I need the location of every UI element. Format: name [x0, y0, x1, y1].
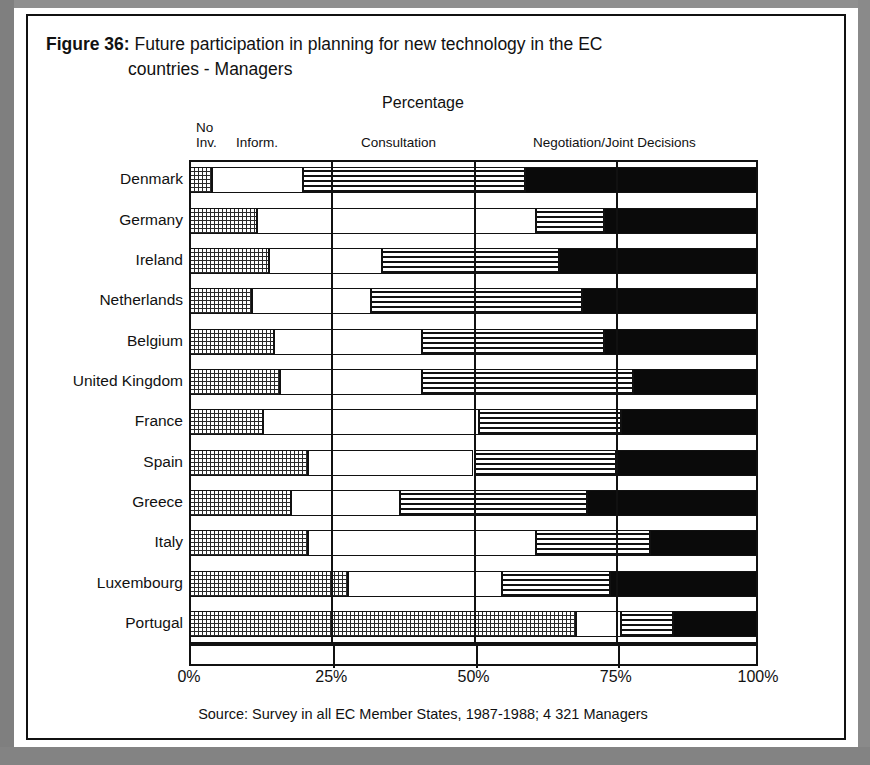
scan-edge-left	[0, 0, 14, 765]
category-label: Portugal	[28, 614, 183, 632]
figure-label: Figure 36:	[46, 34, 130, 54]
x-axis-tick-label: 100%	[723, 668, 793, 686]
category-label: France	[28, 412, 183, 430]
legend-item-negotiation: Negotiation/Joint Decisions	[533, 135, 696, 150]
x-axis-tick	[476, 646, 478, 668]
figure-title: Figure 36: Future participation in plann…	[46, 32, 786, 82]
figure-frame: Figure 36: Future participation in plann…	[26, 14, 846, 740]
x-axis-tick	[618, 646, 620, 668]
figure-page: Figure 36: Future participation in plann…	[0, 0, 870, 765]
category-label: Luxembourg	[28, 574, 183, 592]
source-note: Source: Survey in all EC Member States, …	[28, 706, 818, 722]
category-label: Greece	[28, 493, 183, 511]
x-axis-band	[189, 644, 758, 666]
figure-title-line1: Future participation in planning for new…	[135, 34, 603, 54]
x-axis-tick-label: 50%	[439, 668, 509, 686]
plot-area	[189, 160, 758, 644]
legend-no-inv-line2: Inv.	[196, 135, 217, 150]
category-label: United Kingdom	[28, 372, 183, 390]
x-axis-tick-labels: 0%25%50%75%100%	[28, 668, 818, 692]
x-axis-tick	[333, 646, 335, 668]
legend-no-inv-line1: No	[196, 120, 213, 135]
legend-item-information: Inform.	[236, 135, 278, 150]
x-axis-tick-label: 75%	[581, 668, 651, 686]
x-axis-tick-label: 25%	[296, 668, 366, 686]
category-label: Ireland	[28, 251, 183, 269]
figure-title-line2: countries - Managers	[128, 57, 786, 82]
category-label: Germany	[28, 211, 183, 229]
category-label: Italy	[28, 533, 183, 551]
x-axis-tick-label: 0%	[154, 668, 224, 686]
category-label: Denmark	[28, 170, 183, 188]
plot-border	[189, 160, 758, 644]
category-label: Netherlands	[28, 291, 183, 309]
axis-caption: Percentage	[28, 94, 818, 112]
category-axis-labels: DenmarkGermanyIrelandNetherlandsBelgiumU…	[28, 160, 183, 644]
category-label: Belgium	[28, 332, 183, 350]
scan-edge-bottom	[0, 747, 870, 765]
chart-legend: NoInv. Inform. Consultation Negotiation/…	[28, 120, 818, 154]
scan-edge-right	[858, 0, 870, 765]
scan-edge-top	[0, 0, 870, 8]
category-label: Spain	[28, 453, 183, 471]
legend-item-consultation: Consultation	[361, 135, 436, 150]
